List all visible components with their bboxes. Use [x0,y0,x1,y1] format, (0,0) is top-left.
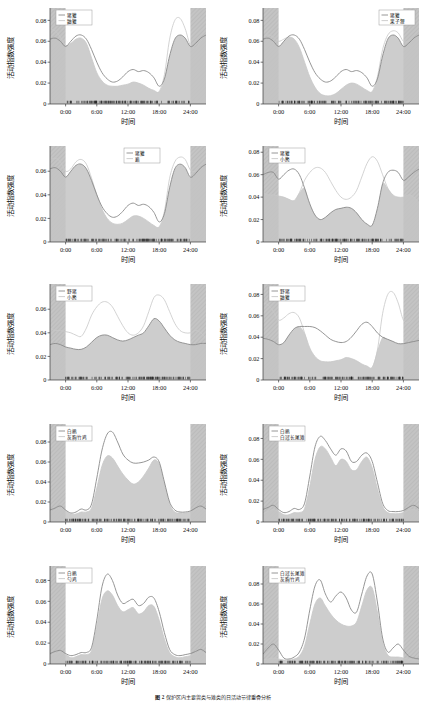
x-axis-label: 时间 [121,535,135,544]
x-tick-label: 6:00 [91,384,102,391]
y-axis-label: 活动指数强度 [219,453,228,496]
x-tick-label: 24:00 [396,668,411,675]
x-tick-label: 18:00 [152,246,167,253]
y-tick-label: 0.06 [36,458,47,465]
y-axis-label: 活动指数强度 [6,453,15,496]
y-tick-label: 0.04 [36,58,47,65]
legend: 野猪小麂 [56,286,92,301]
panel-5: 00.020.040.060:006:0012:0018:0024:00时间活动… [0,276,213,414]
y-tick-label: 0.06 [249,600,260,607]
y-axis-label: 活动指数强度 [219,174,228,217]
y-tick-label: 0.06 [36,37,47,44]
x-tick-label: 0:00 [273,108,284,115]
x-axis-label: 时间 [121,393,135,402]
x-tick-label: 6:00 [91,526,102,533]
caption-label: 图 2 [155,694,164,700]
y-tick-label: 0.08 [36,438,47,445]
panel-3: 00.020.040.060:006:0012:0018:0024:00时间活动… [0,138,213,276]
y-tick-label: 0.02 [249,640,260,647]
x-axis-label: 时间 [334,255,348,264]
y-tick-label: 0.02 [249,355,260,362]
legend-label: 白冠长尾雉 [280,434,305,441]
night-band-1 [403,424,419,522]
y-tick-label: 0.04 [36,329,47,336]
x-tick-label: 12:00 [334,246,349,253]
chart-panel: 00.020.040.060:006:0012:0018:0024:00时间活动… [0,138,213,276]
y-tick-label: 0.04 [249,193,260,200]
x-tick-label: 18:00 [152,526,167,533]
x-tick-label: 24:00 [396,246,411,253]
y-tick-label: 0.02 [249,497,260,504]
x-axis-label: 时间 [334,393,348,402]
y-tick-label: 0.04 [249,58,260,65]
night-band-1 [403,566,419,664]
legend: 猪獾小麂 [269,148,305,163]
y-tick-label: 0.08 [249,291,260,298]
y-axis-label: 活动指数强度 [219,36,228,79]
x-tick-label: 6:00 [304,384,315,391]
x-tick-label: 12:00 [334,526,349,533]
panel-2: 00.020.040.060.080:006:0012:0018:0024:00… [213,0,426,138]
overlap-area [263,35,419,104]
chart-panel: 00.020.040.060.080:006:0012:0018:0024:00… [0,556,213,698]
y-tick-label: 0.04 [249,333,260,340]
legend: 猪獾果子狸 [379,10,415,25]
legend: 白鹇勺鸡 [56,568,92,583]
x-tick-label: 18:00 [365,668,380,675]
y-tick-label: 0 [256,660,259,667]
chart-panel: 00.020.040.060.080:006:0012:0018:0024:00… [0,0,213,138]
y-tick-label: 0 [43,518,46,525]
y-tick-label: 0.04 [36,618,47,625]
chart-panel: 00.020.040.060.080:006:0012:0018:0024:00… [213,414,426,556]
series-line-b [50,295,206,339]
y-tick-label: 0 [256,238,259,245]
y-tick-label: 0 [43,100,46,107]
y-axis-label: 活动指数强度 [6,36,15,79]
legend: 白鹇白冠长尾雉 [269,426,305,441]
y-tick-label: 0.06 [249,171,260,178]
caption-text: 保护区内主要兽类与雉类的日活动节律重叠分析 [166,694,271,700]
legend-label: 小麂 [67,294,77,301]
series-line-b [263,157,419,203]
legend-label: 灰胸竹鸡 [280,576,300,583]
x-tick-label: 18:00 [365,526,380,533]
chart-panel: 00.020.040.060.080:006:0012:0018:0024:00… [213,0,426,138]
chart-panel: 00.020.040.060.080:006:0012:0018:0024:00… [213,556,426,698]
x-tick-label: 12:00 [121,668,136,675]
legend-label: 勺鸡 [67,576,77,583]
legend: 野猪鼬獾 [269,286,305,301]
y-tick-label: 0 [43,660,46,667]
x-tick-label: 18:00 [152,108,167,115]
overlap-area [263,586,419,664]
x-tick-label: 0:00 [60,246,71,253]
chart-panel: 00.020.040.060.080:006:0012:0018:0024:00… [213,138,426,276]
x-tick-label: 0:00 [273,668,284,675]
figure-caption: 图 2 保护区内主要兽类与雉类的日活动节律重叠分析 [0,694,426,701]
x-axis-label: 时间 [334,677,348,686]
figure-activity-rhythm-overlap: 00.020.040.060.080:006:0012:0018:0024:00… [0,0,426,702]
overlap-area [50,35,206,104]
x-tick-label: 6:00 [91,246,102,253]
legend: 猪獾鼬獾 [56,10,92,25]
x-tick-label: 12:00 [121,108,136,115]
y-axis-label: 活动指数强度 [6,595,15,638]
x-tick-label: 6:00 [91,108,102,115]
x-tick-label: 0:00 [60,668,71,675]
y-tick-label: 0.04 [36,478,47,485]
legend-label: 小麂 [280,156,290,163]
legend-label: 果子狸 [390,18,405,25]
x-tick-label: 12:00 [334,108,349,115]
y-tick-label: 0.02 [249,216,260,223]
overlap-area [263,183,419,242]
legend-label: 鼬獾 [280,294,290,301]
y-tick-label: 0 [43,238,46,245]
y-tick-label: 0.02 [249,79,260,86]
x-tick-label: 6:00 [304,108,315,115]
x-tick-label: 6:00 [304,246,315,253]
panel-1: 00.020.040.060.080:006:0012:0018:0024:00… [0,0,213,138]
y-tick-label: 0.06 [249,312,260,319]
x-tick-label: 24:00 [396,108,411,115]
overlap-area [263,326,419,380]
x-tick-label: 18:00 [365,246,380,253]
x-tick-label: 24:00 [183,526,198,533]
